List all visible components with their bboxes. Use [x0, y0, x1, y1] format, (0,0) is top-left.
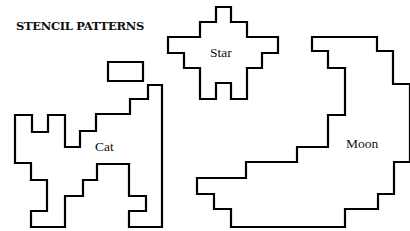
cat-outline: [15, 85, 162, 227]
star-label: Star: [210, 45, 232, 60]
moon-outline: [197, 37, 410, 227]
cat-ear-outline: [108, 62, 143, 81]
cat-label: Cat: [95, 139, 114, 154]
stencil-canvas: Cat Star Moon: [0, 0, 410, 231]
moon-label: Moon: [346, 136, 379, 151]
